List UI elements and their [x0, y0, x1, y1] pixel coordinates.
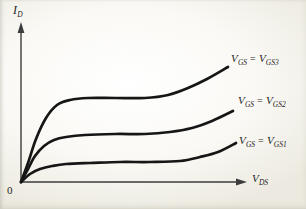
x-axis-arrowhead-icon — [236, 179, 247, 186]
label-rhs: V — [259, 52, 266, 64]
curve-vgs1 — [21, 143, 236, 182]
y-axis-arrowhead-icon — [18, 22, 25, 33]
curve-label-vgs2: VGS=VGS2 — [238, 95, 286, 106]
label-lhs: V — [238, 94, 245, 106]
curve-label-vgs1: VGS=VGS1 — [239, 135, 287, 146]
curve-vgs2 — [21, 111, 233, 182]
label-lhs-sub: GS — [245, 100, 254, 109]
x-axis-symbol: V — [252, 172, 259, 184]
label-lhs-sub: GS — [246, 140, 255, 149]
label-rhs-sub: GS3 — [266, 58, 279, 67]
label-rhs: V — [267, 134, 274, 146]
x-axis-subscript: DS — [259, 178, 268, 187]
label-rhs-sub: GS1 — [274, 140, 287, 149]
y-axis-subscript: D — [17, 10, 22, 19]
y-axis-label: ID — [13, 4, 23, 16]
x-axis-label: VDS — [252, 173, 268, 184]
equals-sign: = — [255, 135, 267, 146]
equals-sign: = — [247, 53, 259, 64]
curve-label-vgs3: VGS=VGS3 — [231, 53, 279, 64]
label-lhs: V — [231, 52, 238, 64]
label-rhs-sub: GS2 — [273, 100, 286, 109]
origin-label: 0 — [7, 185, 13, 196]
figure-mosfet-output-characteristics: ID 0 VDS VGS=VGS3 VGS=VGS2 VGS=VGS1 — [0, 0, 306, 209]
label-lhs: V — [239, 134, 246, 146]
label-rhs: V — [266, 94, 273, 106]
label-lhs-sub: GS — [238, 58, 247, 67]
equals-sign: = — [254, 95, 266, 106]
